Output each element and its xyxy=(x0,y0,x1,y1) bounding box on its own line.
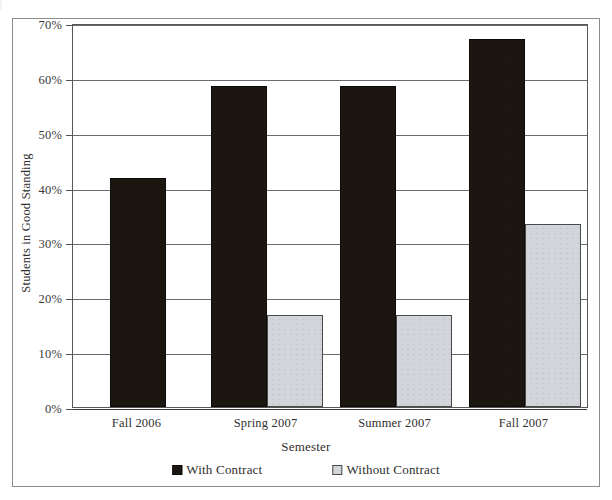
y-tick-mark xyxy=(66,244,73,245)
scan-artifact-strip xyxy=(0,0,612,10)
x-tick-label-fall-2006: Fall 2006 xyxy=(112,416,161,431)
x-tick-label-spring-2007: Spring 2007 xyxy=(234,416,298,431)
bar-spring-2007-with-contract xyxy=(211,86,267,407)
x-axis-title: Semester xyxy=(281,439,330,455)
y-tick-label: 20% xyxy=(38,292,62,307)
y-tick-mark xyxy=(66,80,73,81)
bar-spring-2007-without-contract xyxy=(267,315,323,407)
legend-label: Without Contract xyxy=(346,462,439,478)
bar-fall-2007-with-contract xyxy=(469,39,525,407)
bar-fall-2006-with-contract xyxy=(110,178,166,407)
y-tick-label: 50% xyxy=(38,127,62,142)
bars-layer xyxy=(73,25,587,407)
y-tick-mark xyxy=(66,25,73,26)
bar-summer-2007-with-contract xyxy=(340,86,396,407)
legend-swatch-icon xyxy=(332,465,342,475)
chart-legend: With ContractWithout Contract xyxy=(172,462,439,478)
legend-item-without-contract: Without Contract xyxy=(332,462,439,478)
y-tick-mark xyxy=(66,354,73,355)
x-tick-label-summer-2007: Summer 2007 xyxy=(358,416,431,431)
bar-fall-2007-without-contract xyxy=(525,224,581,407)
gridline-0 xyxy=(73,409,587,410)
y-tick-mark xyxy=(66,409,73,410)
y-tick-mark xyxy=(66,190,73,191)
legend-swatch-icon xyxy=(172,465,182,475)
legend-label: With Contract xyxy=(186,462,262,478)
y-tick-label: 70% xyxy=(38,18,62,33)
y-tick-label: 60% xyxy=(38,72,62,87)
x-tick-label-fall-2007: Fall 2007 xyxy=(499,416,548,431)
y-tick-label: 40% xyxy=(38,182,62,197)
y-tick-mark xyxy=(66,135,73,136)
plot-area: 0%10%20%30%40%50%60%70% xyxy=(72,24,588,408)
bar-summer-2007-without-contract xyxy=(396,315,452,407)
bar-chart: Students in Good Standing 0%10%20%30%40%… xyxy=(12,18,600,487)
y-tick-mark xyxy=(66,299,73,300)
y-tick-label: 10% xyxy=(38,347,62,362)
legend-item-with-contract: With Contract xyxy=(172,462,262,478)
y-axis-title: Students in Good Standing xyxy=(19,153,34,292)
y-tick-label: 30% xyxy=(38,237,62,252)
y-tick-label: 0% xyxy=(45,402,62,417)
